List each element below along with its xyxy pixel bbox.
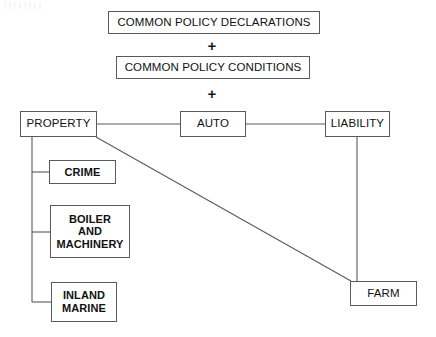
node-label: PROPERTY — [27, 117, 91, 130]
node-label: INLAND MARINE — [62, 289, 106, 314]
node-inland-marine[interactable]: INLAND MARINE — [51, 282, 117, 322]
node-common-policy-conditions[interactable]: COMMON POLICY CONDITIONS — [116, 56, 310, 79]
node-boiler-and-machinery[interactable]: BOILER AND MACHINERY — [50, 205, 130, 258]
plus-operator-2: + — [204, 86, 220, 101]
node-label: AUTO — [197, 117, 229, 130]
node-crime[interactable]: CRIME — [49, 160, 116, 184]
node-label: LIABILITY — [331, 117, 384, 130]
plus-operator-1: + — [204, 38, 220, 53]
policy-structure-diagram: COMMON POLICY DECLARATIONS + COMMON POLI… — [0, 0, 436, 337]
node-farm[interactable]: FARM — [350, 281, 417, 306]
node-label: CRIME — [65, 166, 101, 179]
node-label: FARM — [367, 287, 399, 300]
node-auto[interactable]: AUTO — [180, 111, 246, 137]
edge-property-farm-diagonal — [96, 137, 351, 281]
node-common-policy-declarations[interactable]: COMMON POLICY DECLARATIONS — [108, 11, 320, 34]
node-property[interactable]: PROPERTY — [20, 111, 97, 137]
node-label: BOILER AND MACHINERY — [56, 213, 123, 251]
node-label: COMMON POLICY CONDITIONS — [125, 61, 302, 74]
node-label: COMMON POLICY DECLARATIONS — [117, 16, 310, 29]
node-liability[interactable]: LIABILITY — [325, 111, 390, 137]
